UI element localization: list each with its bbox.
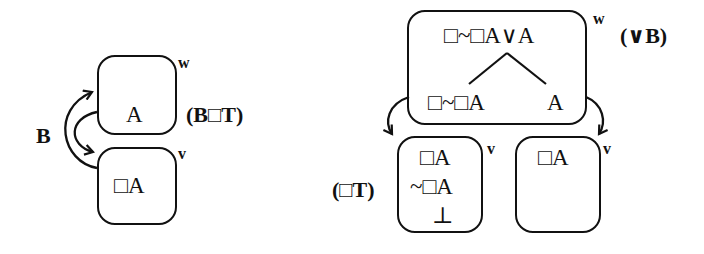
access-arrow-v-to-w (65, 92, 97, 168)
formula-box-a-v2: □A (538, 146, 569, 169)
formula-box-a-v1: □A (420, 146, 451, 169)
world-label-w-right: w (593, 11, 605, 27)
world-label-v-right-left: v (487, 141, 495, 157)
formula-branch-left: □~□A (428, 91, 485, 114)
formula-branch-right: A (547, 91, 564, 114)
formula-box-a: □A (114, 174, 145, 197)
formula-not-box-a: ~□A (410, 175, 453, 198)
formula-bottom: ⊥ (432, 204, 454, 227)
access-arrow-w-to-v (75, 112, 97, 152)
arrow-label-b: B (36, 125, 51, 147)
access-arrow-w-to-v-left (388, 97, 409, 134)
rule-label-box-t: (□T) (332, 179, 375, 201)
formula-disjunction: □~□A∨A (444, 24, 534, 47)
world-label-v-left: v (178, 146, 186, 162)
world-label-w-left: w (178, 55, 190, 71)
rule-label-or-b: (∨B) (620, 25, 667, 47)
formula-a: A (126, 103, 143, 126)
world-label-v-right-right: v (603, 141, 611, 157)
rule-label-b-box-t: (B□T) (186, 104, 243, 126)
access-arrow-w-to-v-right (586, 97, 603, 134)
